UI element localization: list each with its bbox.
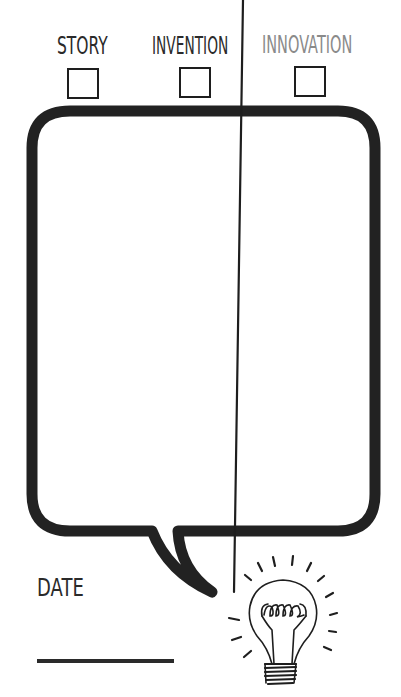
speech-bubble-content-area[interactable] [38, 118, 368, 524]
date-label: DATE [37, 574, 84, 602]
date-input-line[interactable] [37, 659, 174, 663]
